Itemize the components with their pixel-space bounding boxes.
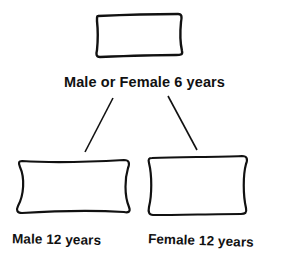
male-node-label: Male 12 years (12, 231, 101, 248)
root-node-box (96, 14, 182, 57)
tree-diagram (0, 0, 282, 266)
connector-left (85, 98, 113, 152)
root-node-label: Male or Female 6 years (64, 74, 225, 90)
connector-right (168, 96, 197, 150)
left-child-box (17, 160, 130, 213)
right-child-box (149, 156, 247, 215)
